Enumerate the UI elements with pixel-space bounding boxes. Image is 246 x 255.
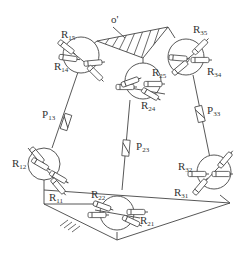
moving-platform xyxy=(97,25,168,62)
label-r35: R35 xyxy=(193,24,207,37)
joint-r32-r31 xyxy=(188,149,235,195)
joint-r12-r11 xyxy=(28,146,70,196)
label-sub: 32 xyxy=(185,166,192,174)
label-sub: 35 xyxy=(200,29,207,37)
label-text: o' xyxy=(111,13,118,25)
label-sub: 14 xyxy=(61,66,68,74)
prismatic-joint-33 xyxy=(195,105,205,122)
label-p33: P33 xyxy=(207,105,220,118)
label-sub: 21 xyxy=(147,220,154,228)
label-r32: R32 xyxy=(178,161,192,174)
label-sub: 22 xyxy=(98,194,105,202)
ground-hatch-icon xyxy=(60,220,80,232)
label-platform-origin: o' xyxy=(111,14,118,25)
label-r11: R11 xyxy=(49,192,63,205)
prismatic-joint-13 xyxy=(60,113,72,130)
label-sub: 15 xyxy=(68,34,75,42)
label-sub: 13 xyxy=(48,114,55,122)
label-sub: 11 xyxy=(56,197,63,205)
label-sub: 12 xyxy=(19,163,26,171)
label-p23: P23 xyxy=(136,141,149,154)
label-r25: R25 xyxy=(152,67,166,80)
prismatic-joint-23 xyxy=(122,140,130,157)
label-r34: R34 xyxy=(207,66,221,79)
label-r31: R31 xyxy=(174,187,188,200)
leg-1 xyxy=(52,72,78,148)
label-r14: R14 xyxy=(54,61,68,74)
label-sub: 23 xyxy=(142,146,149,154)
label-p13: P13 xyxy=(42,109,55,122)
label-r22: R22 xyxy=(91,189,105,202)
parallel-mechanism-diagram xyxy=(0,0,246,255)
label-sub: 33 xyxy=(213,110,220,118)
label-r21: R21 xyxy=(140,215,154,228)
label-r12: R12 xyxy=(12,158,26,171)
label-sub: 34 xyxy=(214,71,221,79)
label-sub: 24 xyxy=(148,105,155,113)
label-sub: 31 xyxy=(181,192,188,200)
label-sub: 25 xyxy=(159,72,166,80)
label-r24: R24 xyxy=(141,100,155,113)
label-r15: R15 xyxy=(61,29,75,42)
joint-r35-r34 xyxy=(168,37,212,76)
